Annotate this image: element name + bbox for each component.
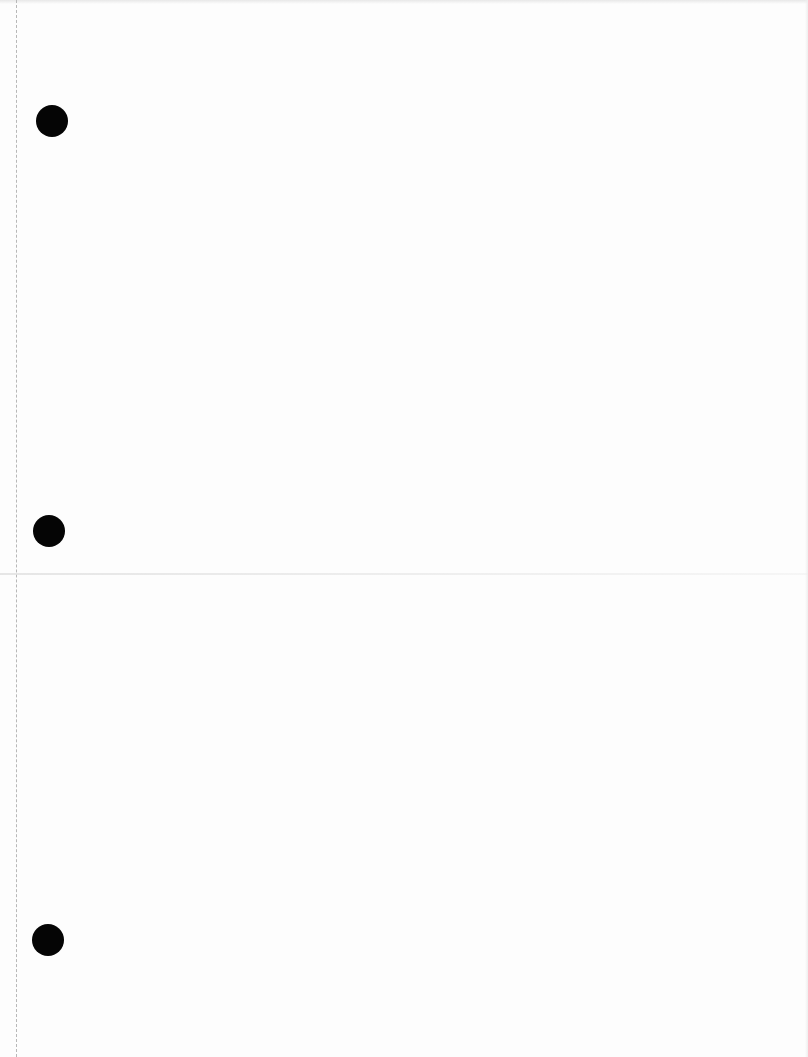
margin-dashed-line [16, 0, 17, 1057]
punch-hole-top [36, 105, 68, 137]
page-top-edge [0, 0, 808, 4]
punch-hole-bottom [32, 924, 64, 956]
scanned-page [0, 0, 808, 1057]
punch-hole-middle [33, 515, 65, 547]
page-fold-line [0, 573, 808, 575]
